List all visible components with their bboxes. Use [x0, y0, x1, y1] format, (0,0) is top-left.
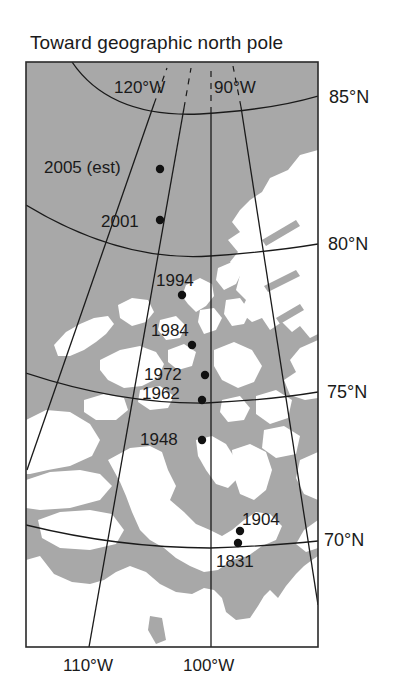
pole-dot-1984 [188, 341, 196, 349]
year-label-1984: 1984 [151, 322, 189, 339]
pole-dot-1994 [178, 291, 186, 299]
pole-dot-1831 [234, 539, 242, 547]
pole-dot-2005 [156, 165, 164, 173]
label-100w: 100°W [183, 657, 234, 674]
label-110w: 110°W [63, 657, 113, 674]
year-label-1948: 1948 [140, 431, 178, 448]
year-label-1962: 1962 [142, 385, 180, 402]
pole-dot-1972 [201, 371, 209, 379]
label-75n: 75°N [327, 383, 367, 401]
pole-dot-1948 [198, 436, 206, 444]
pole-dot-2001 [156, 216, 164, 224]
label-120w: 120°W [114, 79, 165, 96]
year-label-1904: 1904 [242, 511, 280, 528]
label-85n: 85°N [329, 88, 369, 106]
year-label-1994: 1994 [156, 272, 194, 289]
label-70n: 70°N [324, 531, 364, 549]
year-label-1972: 1972 [144, 366, 182, 383]
label-90w: 90°W [214, 79, 256, 96]
year-label-2005: 2005 (est) [44, 159, 121, 176]
pole-dot-1962 [198, 396, 206, 404]
year-label-2001: 2001 [101, 213, 139, 230]
label-80n: 80°N [328, 235, 368, 253]
year-label-1831: 1831 [216, 553, 254, 570]
